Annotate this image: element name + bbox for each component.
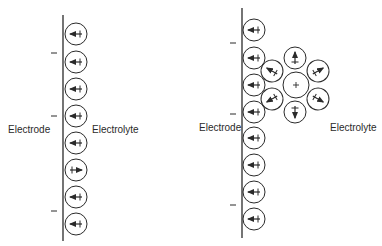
double-layer-diagram <box>0 0 382 246</box>
right-electrode-label: Electrode <box>199 122 241 133</box>
left-electrode-label: Electrode <box>8 124 50 135</box>
left-electrolyte-label: Electrolyte <box>92 124 139 135</box>
right-electrolyte-label: Electrolyte <box>330 122 377 133</box>
right-panel <box>230 8 333 238</box>
negative-charges <box>51 53 57 211</box>
solvated-cation <box>257 47 333 123</box>
water-dipoles <box>243 19 265 230</box>
water-dipoles <box>65 23 87 235</box>
left-panel <box>51 15 87 241</box>
